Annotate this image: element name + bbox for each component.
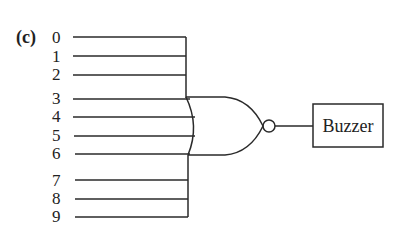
input-label-7: 7	[52, 171, 61, 190]
nor-gate-body	[186, 97, 263, 155]
nor-gate	[186, 97, 275, 155]
input-label-3: 3	[52, 89, 61, 108]
input-label-5: 5	[52, 126, 61, 145]
buzzer-label: Buzzer	[323, 116, 374, 136]
circuit-diagram: (c) 0 1 2 3 4 5 6 7 8 9	[0, 0, 407, 236]
buzzer-box: Buzzer	[313, 104, 383, 147]
input-label-0: 0	[52, 28, 61, 47]
nor-gate-back-curve	[186, 97, 194, 155]
input-wires	[73, 37, 195, 217]
input-labels: 0 1 2 3 4 5 6 7 8 9	[52, 28, 61, 226]
input-label-2: 2	[52, 65, 61, 84]
input-label-6: 6	[52, 144, 61, 163]
input-label-1: 1	[52, 47, 61, 66]
inversion-bubble	[263, 120, 275, 132]
part-label: (c)	[16, 27, 36, 48]
input-label-4: 4	[52, 107, 61, 126]
input-label-8: 8	[52, 189, 61, 208]
input-label-9: 9	[52, 207, 61, 226]
